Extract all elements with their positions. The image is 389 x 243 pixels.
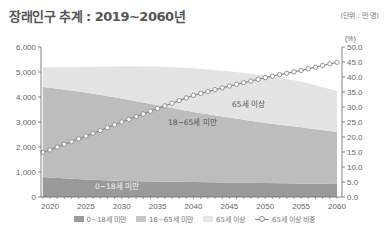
ratio-marker: [328, 62, 332, 66]
y-left-tick: 4,000: [16, 93, 37, 102]
ratio-marker: [234, 82, 238, 86]
x-tick: 2060: [328, 202, 346, 211]
y-left-tick: 1,000: [16, 168, 37, 177]
ratio-marker: [335, 60, 339, 64]
ratio-marker: [199, 91, 203, 95]
legend-label: 0~18세 미만: [87, 214, 126, 224]
y-left-tick: 5,000: [16, 68, 37, 77]
ratio-marker: [242, 80, 246, 84]
y-right-tick: 5.0: [347, 178, 359, 187]
ratio-marker: [105, 125, 109, 129]
ratio-marker: [292, 70, 296, 74]
ratio-marker: [163, 104, 167, 108]
legend-item: 65세 이상 비중: [255, 214, 315, 224]
ratio-marker: [213, 88, 217, 92]
ratio-marker: [127, 117, 131, 121]
legend-item: 18~65세 미만: [136, 214, 193, 224]
x-tick: 2025: [77, 202, 95, 211]
ratio-marker: [141, 112, 145, 116]
ratio-marker: [55, 145, 59, 149]
y-right-tick: 40.0: [347, 73, 363, 82]
y-left-tick: 2,000: [16, 143, 37, 152]
ratio-marker: [134, 114, 138, 118]
y-right-tick: 30.0: [347, 103, 363, 112]
y-left-tick: 6,000: [16, 43, 37, 52]
y-right-tick: 20.0: [347, 133, 363, 142]
x-tick: 2030: [113, 202, 131, 211]
ratio-marker: [306, 67, 310, 71]
ratio-marker: [206, 89, 210, 93]
line-marker-icon: [255, 216, 269, 222]
y-right-tick: 50.0: [347, 43, 363, 52]
ratio-marker: [120, 120, 124, 124]
x-tick: 2045: [220, 202, 238, 211]
legend: 0~18세 미만18~65세 미만65세 이상65세 이상 비중: [0, 214, 389, 224]
y-right-tick: 0.0: [347, 193, 359, 202]
y-left-tick: 0: [32, 193, 37, 202]
ratio-marker: [91, 131, 95, 135]
ratio-marker: [177, 98, 181, 102]
ratio-marker: [263, 75, 267, 79]
ratio-marker: [84, 134, 88, 138]
x-tick: 2040: [185, 202, 203, 211]
annotation-working: 18~65세 미만: [168, 118, 217, 127]
ratio-marker: [112, 123, 116, 127]
y-right-tick: 25.0: [347, 118, 363, 127]
legend-label: 18~65세 미만: [149, 214, 193, 224]
legend-item: 65세 이상: [203, 214, 245, 224]
ratio-marker: [48, 148, 52, 152]
ratio-marker: [220, 86, 224, 90]
legend-item: 0~18세 미만: [74, 214, 126, 224]
ratio-marker: [184, 96, 188, 100]
x-tick: 2020: [41, 202, 59, 211]
ratio-marker: [227, 84, 231, 88]
y-right-tick: 35.0: [347, 88, 363, 97]
y-right-tick: 10.0: [347, 163, 363, 172]
ratio-marker: [277, 73, 281, 77]
x-tick: 2035: [149, 202, 167, 211]
swatch-icon: [74, 216, 84, 222]
legend-label: 65세 이상: [216, 214, 245, 224]
population-chart: 01,0002,0003,0004,0005,0006,0000.05.010.…: [0, 0, 389, 243]
y-right-tick: 45.0: [347, 58, 363, 67]
annotation-youth: 0~18세 미만: [95, 182, 139, 191]
swatch-icon: [203, 216, 213, 222]
x-tick: 2055: [292, 202, 310, 211]
ratio-marker: [299, 68, 303, 72]
y-right-unit: (%): [345, 35, 356, 43]
ratio-marker: [69, 139, 73, 143]
x-tick: 2050: [256, 202, 274, 211]
ratio-marker: [256, 77, 260, 81]
ratio-marker: [191, 93, 195, 97]
legend-label: 65세 이상 비중: [272, 214, 315, 224]
ratio-marker: [170, 101, 174, 105]
ratio-marker: [270, 74, 274, 78]
ratio-marker: [98, 128, 102, 132]
ratio-marker: [249, 79, 253, 83]
y-right-tick: 15.0: [347, 148, 363, 157]
ratio-marker: [155, 106, 159, 110]
ratio-marker: [313, 65, 317, 69]
swatch-icon: [136, 216, 146, 222]
stacked-areas: [43, 66, 337, 197]
ratio-marker: [320, 63, 324, 67]
annotation-elderly: 65세 이상: [232, 99, 265, 109]
ratio-marker: [77, 137, 81, 141]
ratio-marker: [148, 109, 152, 113]
ratio-marker: [62, 142, 66, 146]
y-left-tick: 3,000: [16, 118, 37, 127]
ratio-marker: [285, 71, 289, 75]
